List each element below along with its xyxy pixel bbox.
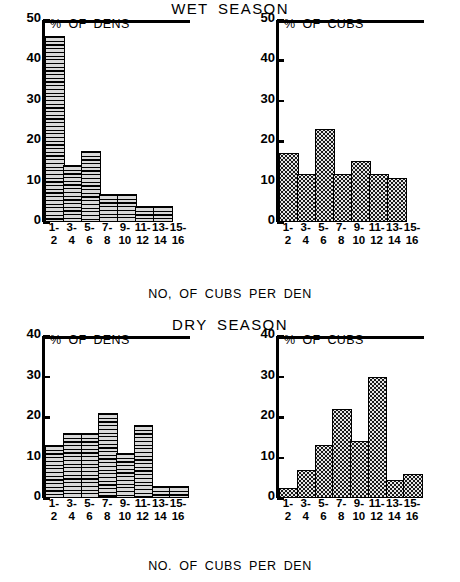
x-axis-tick-label: 13-14 [386,498,404,522]
y-axis-tick-label: 30 [27,91,41,106]
y-axis-tick-label: 40 [27,50,41,65]
bar [63,433,82,498]
bar [81,151,101,222]
bar [350,441,369,498]
y-axis-tick: 30 [238,100,284,101]
x-axis-tick-label: 11-12 [134,222,152,246]
x-axis-tick-label: 7-8 [332,498,350,522]
y-axis-tick: 50 [238,19,284,20]
y-axis-tick: 10 [4,181,50,182]
x-axis-tick-label: 15-16 [403,498,421,522]
bar-group-wet-cubs [279,20,421,222]
bar [63,165,83,222]
y-axis-tick: 40 [238,335,284,336]
y-axis-tick-label: 30 [261,91,275,106]
x-axis-tick-label: 15-16 [403,222,421,246]
y-axis-tick-label: 10 [27,172,41,187]
bar [386,480,405,498]
bar [99,194,119,222]
y-axis-tick: 0 [238,497,284,498]
y-axis-tick-label: 30 [27,367,41,382]
bar [387,178,407,222]
x-axis-tick-label: 9-10 [116,498,134,522]
x-axis-tick-label: 5-6 [81,498,99,522]
bar [297,470,316,498]
plot-area-dry-cubs: % OF CUBS 010203040 1-23-45-67-89-1011-1… [238,336,424,521]
y-axis-tick: 20 [4,140,50,141]
y-axis-tick-label: 40 [261,326,275,341]
y-axis-tick-label: 50 [261,10,275,25]
y-axis-tick-label: 10 [261,448,275,463]
panel-wet-season: WET SEASON % OF DENS 01020304050 1-23-45… [0,0,460,300]
y-axis-tick-label: 30 [261,367,275,382]
x-axis-tick-label: 15-16 [169,222,187,246]
x-axis-tick-label: 11-12 [368,222,386,246]
bar [403,474,422,498]
y-axis-tick: 30 [4,100,50,101]
figure-root: WET SEASON % OF DENS 01020304050 1-23-45… [0,0,460,582]
x-tick-labels-dry-cubs: 1-23-45-67-89-1011-1213-1415-16 [279,498,421,522]
bar [297,174,317,222]
x-axis-tick-label: 11-12 [368,498,386,522]
x-axis-tick-label: 13-14 [152,498,170,522]
x-axis-caption-dry: NO. OF CUBS PER DEN [0,559,460,573]
y-axis-tick: 40 [4,335,50,336]
y-axis-tick: 0 [4,497,50,498]
x-axis-tick-label: 3-4 [297,498,315,522]
y-axis-tick-label: 0 [34,488,41,503]
y-axis-tick: 10 [4,457,50,458]
y-axis-tick-label: 40 [261,50,275,65]
y-axis-tick-label: 0 [268,488,275,503]
y-axis-tick: 50 [4,19,50,20]
x-axis-tick-label: 7-8 [332,222,350,246]
bar [332,409,351,498]
x-axis-tick-label: 5-6 [81,222,99,246]
y-axis-tick: 20 [238,140,284,141]
bar [369,174,389,222]
chart-wet-cubs: % OF CUBS 01020304050 1-23-45-67-89-1011… [238,20,424,245]
x-axis-tick-label: 5-6 [315,222,333,246]
bar [135,206,155,222]
season-title-dry: DRY SEASON [0,316,460,333]
bar-group-dry-dens [45,336,187,498]
y-axis-tick-label: 0 [34,212,41,227]
y-axis-tick-label: 20 [261,407,275,422]
bar [117,194,137,222]
x-axis-tick-label: 7-8 [98,222,116,246]
x-axis-tick-label: 1-2 [45,222,63,246]
x-axis-tick-label: 9-10 [350,498,368,522]
x-axis-tick-label: 5-6 [315,498,333,522]
y-axis-tick-label: 20 [27,131,41,146]
y-axis-tick-label: 50 [27,10,41,25]
x-tick-labels-wet-dens: 1-23-45-67-89-1011-1213-1415-16 [45,222,187,246]
plot-area-dry-dens: % OF DENS 010203040 1-23-45-67-89-1011-1… [4,336,190,521]
y-axis-tick: 10 [238,457,284,458]
y-axis-tick: 30 [4,376,50,377]
bar [315,129,335,222]
x-axis-tick-label: 11-12 [134,498,152,522]
x-axis-tick-label: 15-16 [169,498,187,522]
x-axis-tick-label: 13-14 [152,222,170,246]
plot-area-wet-dens: % OF DENS 01020304050 1-23-45-67-89-1011… [4,20,190,245]
y-axis-tick-label: 20 [261,131,275,146]
y-axis-tick-label: 0 [268,212,275,227]
x-axis-tick-label: 3-4 [297,222,315,246]
bar-group-dry-cubs [279,336,421,498]
x-tick-labels-dry-dens: 1-23-45-67-89-1011-1213-1415-16 [45,498,187,522]
x-tick-labels-wet-cubs: 1-23-45-67-89-1011-1213-1415-16 [279,222,421,246]
bar [134,425,153,498]
x-axis-caption-wet: NO, OF CUBS PER DEN [0,287,460,301]
bar [81,433,100,498]
bar [45,36,65,222]
y-axis-tick: 40 [238,59,284,60]
x-axis-tick-label: 13-14 [386,222,404,246]
y-axis-tick: 0 [4,221,50,222]
x-axis-tick-label: 9-10 [350,222,368,246]
bar [153,206,173,222]
bar [98,413,117,498]
y-axis-tick-label: 40 [27,326,41,341]
y-axis-tick-label: 10 [27,448,41,463]
bar [279,153,299,222]
chart-dry-cubs: % OF CUBS 010203040 1-23-45-67-89-1011-1… [238,336,424,521]
x-axis-tick-label: 1-2 [279,498,297,522]
